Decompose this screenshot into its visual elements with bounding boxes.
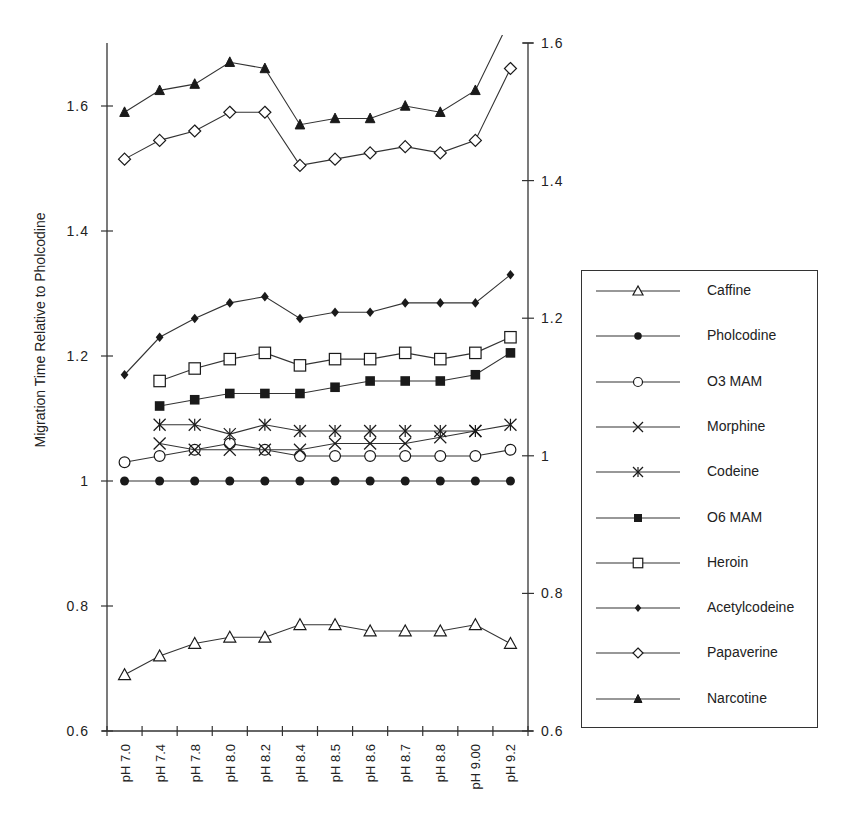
x-tick-label: pH 9.2 [503, 744, 518, 782]
legend-x-icon [594, 415, 684, 439]
circle-filled-marker [225, 477, 234, 486]
square-filled-marker [225, 389, 235, 399]
legend-item: O3 MAM [582, 370, 817, 394]
square-open-marker [505, 332, 516, 343]
legend-label: Codeine [707, 463, 759, 479]
square-open-marker [470, 347, 481, 358]
diamond-open-marker [329, 153, 341, 165]
legend-item: Pholcodine [582, 324, 817, 348]
legend-item: Heroin [582, 551, 817, 575]
legend-diamond-filled-icon [594, 596, 684, 620]
diamond-filled-marker [191, 314, 199, 324]
legend-square-open-icon [594, 551, 684, 575]
circle-open-marker [119, 457, 130, 468]
series-line [125, 275, 511, 375]
diamond-filled-marker [401, 298, 409, 308]
circle-open-marker [470, 451, 481, 462]
circle-filled-marker [295, 477, 304, 486]
diamond-open-marker [224, 106, 236, 118]
legend-asterisk-icon [594, 460, 684, 484]
circle-filled-marker [120, 477, 129, 486]
square-open-marker [329, 353, 340, 364]
legend-item: Acetylcodeine [582, 596, 817, 620]
diamond-filled-marker [366, 307, 374, 317]
circle-filled-marker [260, 477, 269, 486]
series-line [125, 625, 511, 675]
square-filled-marker [471, 370, 481, 380]
triangle-open-marker [259, 631, 271, 642]
square-filled-marker [155, 401, 165, 411]
diamond-open-marker [469, 134, 481, 146]
diamond-open-marker [259, 106, 271, 118]
x-tick-label: pH 7.0 [118, 744, 133, 782]
circle-filled-marker [155, 477, 164, 486]
left-y-tick-label: 0.8 [67, 598, 89, 614]
legend-circle-open-icon [594, 370, 684, 394]
diamond-open-marker [294, 159, 306, 171]
x-tick-label: pH 8.2 [258, 744, 273, 782]
legend-item: Papaverine [582, 641, 817, 665]
triangle-open-marker [294, 619, 306, 630]
legend-label: Morphine [707, 418, 765, 434]
right-y-tick-label: 0.6 [541, 723, 563, 739]
diamond-filled-marker [635, 604, 642, 612]
legend-item: Codeine [582, 460, 817, 484]
left-y-tick-label: 1.2 [67, 348, 89, 364]
right-y-tick-label: 0.8 [541, 585, 563, 601]
series-line [125, 69, 511, 166]
legend-label: Caffine [707, 282, 751, 298]
diamond-filled-marker [471, 298, 479, 308]
triangle-filled-marker [225, 57, 235, 67]
square-open-marker [294, 360, 305, 371]
circle-filled-marker [471, 477, 480, 486]
legend-label: O3 MAM [707, 373, 762, 389]
square-open-marker [189, 363, 200, 374]
triangle-open-marker [399, 625, 411, 636]
series-o3-mam [119, 438, 516, 468]
series-papaverine [119, 63, 517, 172]
legend: CaffinePholcodineO3 MAMMorphineCodeineO6… [581, 270, 818, 728]
series-caffine [119, 619, 517, 680]
triangle-open-marker [504, 638, 516, 649]
diamond-filled-marker [507, 270, 515, 280]
diamond-filled-marker [296, 314, 304, 324]
circle-open-marker [634, 377, 643, 386]
square-filled-marker [634, 514, 642, 522]
legend-diamond-open-icon [594, 641, 684, 665]
square-filled-marker [435, 376, 445, 386]
diamond-open-marker [119, 153, 131, 165]
diamond-open-marker [633, 648, 643, 658]
circle-open-marker [330, 451, 341, 462]
series-line [160, 431, 476, 450]
triangle-open-marker [154, 650, 166, 661]
x-tick-label: pH 9.00 [468, 744, 483, 790]
series-narcotine [120, 19, 511, 129]
diamond-filled-marker [436, 298, 444, 308]
legend-label: Narcotine [707, 690, 767, 706]
circle-filled-marker [506, 477, 515, 486]
triangle-filled-marker [190, 79, 200, 89]
series-pholcodine [120, 477, 515, 486]
triangle-open-marker [329, 619, 341, 630]
diamond-filled-marker [261, 292, 269, 302]
square-open-marker [400, 347, 411, 358]
circle-open-marker [365, 451, 376, 462]
circle-filled-marker [366, 477, 375, 486]
legend-circle-filled-icon [594, 324, 684, 348]
triangle-open-marker [469, 619, 481, 630]
square-filled-marker [400, 376, 410, 386]
left-y-tick-label: 1.6 [67, 98, 89, 114]
axes: 0.60.811.21.41.60.60.811.21.41.6pH 7.0pH… [67, 35, 564, 790]
square-open-marker [224, 353, 235, 364]
series-codeine [154, 419, 517, 440]
x-tick-label: pH 8.0 [223, 744, 238, 782]
triangle-open-marker [119, 669, 131, 680]
triangle-filled-marker [400, 101, 410, 111]
x-tick-label: pH 8.6 [363, 744, 378, 782]
x-tick-label: pH 8.7 [398, 744, 413, 782]
diamond-open-marker [154, 134, 166, 146]
circle-open-marker [400, 451, 411, 462]
triangle-filled-marker [471, 85, 481, 95]
square-open-marker [435, 353, 446, 364]
y-axis-title: Migration Time Relative to Pholcodine [32, 212, 48, 447]
